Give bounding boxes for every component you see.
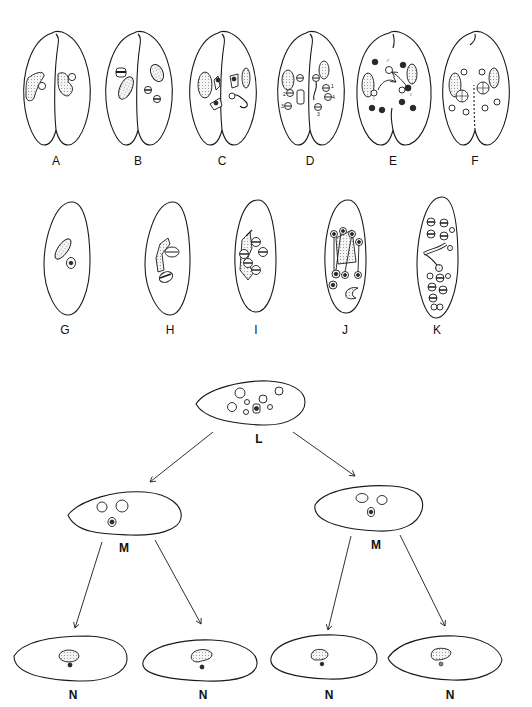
stage-d-pair: 2 3 1 4 3 (278, 31, 345, 145)
stage-label-a: A (52, 154, 60, 168)
stage-h-cell (145, 202, 190, 315)
stage-label-e: E (389, 154, 397, 168)
stage-label-m-right: M (371, 538, 381, 552)
svg-text:♀: ♀ (409, 91, 413, 97)
conjugation-diagram: A B C 2 3 (0, 0, 532, 707)
svg-text:2: 2 (283, 91, 286, 97)
stage-n-cell-2 (143, 640, 257, 681)
stage-g-cell (44, 202, 90, 315)
stage-l-cell (196, 381, 305, 425)
arrow-l-to-m-left (150, 432, 213, 482)
stage-label-l: L (255, 432, 262, 446)
stage-label-k: K (433, 323, 441, 337)
stage-c-pair (190, 31, 257, 145)
svg-text:1: 1 (331, 83, 334, 89)
stage-k-cell (417, 197, 458, 318)
svg-text:♂: ♂ (386, 57, 390, 63)
stage-n-cell-1 (14, 636, 127, 681)
stage-e-pair: ♂ ♀ ♀ (357, 31, 431, 145)
arrow-m-to-n-1 (75, 542, 102, 628)
stage-i-cell (235, 200, 276, 312)
svg-text:4: 4 (332, 94, 335, 100)
stage-label-j: J (342, 323, 348, 337)
stage-label-n-4: N (446, 688, 455, 702)
stage-a-pair (24, 31, 91, 145)
stage-m-cell-left (68, 492, 181, 535)
stage-j-cell (325, 200, 366, 313)
stage-label-n-2: N (199, 688, 208, 702)
arrow-m-to-n-3 (328, 536, 351, 630)
svg-text:3: 3 (281, 103, 284, 109)
svg-text:♀: ♀ (372, 95, 376, 101)
stage-m-cell-right (315, 486, 423, 531)
stage-label-d: D (306, 154, 315, 168)
stage-label-i: I (254, 323, 257, 337)
stage-label-g: G (60, 323, 69, 337)
stage-label-n-1: N (69, 688, 78, 702)
stage-n-cell-4 (388, 636, 502, 680)
stage-b-pair (106, 31, 173, 145)
svg-text:3: 3 (317, 111, 320, 117)
stage-label-f: F (471, 154, 478, 168)
arrow-l-to-m-right (293, 432, 355, 476)
stage-f-pair (443, 31, 510, 145)
arrow-m-to-n-2 (155, 540, 201, 624)
stage-label-b: B (134, 154, 142, 168)
stage-label-h: H (166, 323, 175, 337)
stage-label-c: C (218, 154, 227, 168)
stage-n-cell-3 (271, 635, 377, 679)
arrow-m-to-n-4 (400, 535, 445, 626)
stage-label-m-left: M (119, 541, 129, 555)
stage-label-n-3: N (325, 688, 334, 702)
